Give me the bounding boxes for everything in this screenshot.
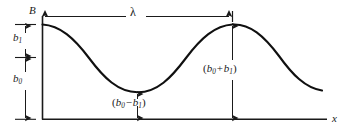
trough-operator: − [125, 96, 133, 108]
trough-value-label: (b0−b1) [112, 97, 146, 110]
y-axis-label: B [29, 5, 36, 16]
b0-label: b0 [13, 73, 22, 86]
wavelength-label: λ [130, 6, 136, 18]
x-axis-label: x [332, 113, 337, 124]
peak-value-label: (b0+b1) [203, 63, 237, 76]
wavelength-arrow [45, 11, 233, 22]
b1-label: b1 [13, 32, 22, 45]
axis-lines [42, 16, 327, 120]
peak-close-paren: ) [233, 62, 237, 74]
b0-subscript: 0 [19, 78, 23, 86]
trough-close-paren: ) [142, 96, 146, 108]
peak-operator: + [216, 62, 224, 74]
figure-canvas [0, 0, 346, 132]
magnetic-field-wave-figure: B λ b1 b0 (b0−b1) (b0+b1) x [0, 0, 346, 132]
field-curve [43, 24, 323, 92]
b1-subscript: 1 [19, 37, 23, 45]
